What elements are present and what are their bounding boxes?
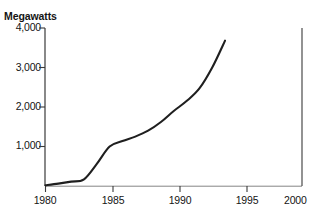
plot-area [0,0,319,216]
data-series-line [46,41,226,186]
chart-figure: Megawatts 4,000 3,000 2,000 1,000 1980 1… [0,0,319,216]
axes-group [39,28,302,192]
